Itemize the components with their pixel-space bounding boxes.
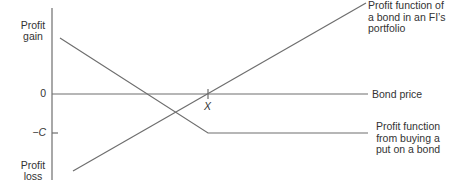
profit-loss-line2: loss xyxy=(18,171,48,182)
bond-profit-label-line1: Profit function of xyxy=(368,0,445,12)
put-profit-line xyxy=(60,38,368,133)
bond-profit-label-line3: portfolio xyxy=(368,23,445,35)
profit-gain-line2: gain xyxy=(18,31,48,42)
bond-price-label: Bond price xyxy=(372,89,422,100)
strike-price-label: X xyxy=(204,101,211,112)
zero-tick-label: 0 xyxy=(20,88,46,99)
minus-c-tick-label: −C xyxy=(14,127,46,138)
bond-profit-label: Profit function of a bond in an FI’s por… xyxy=(368,0,445,35)
put-profit-label: Profit function from buying a put on a b… xyxy=(368,121,448,156)
profit-loss-label: Profit loss xyxy=(18,160,48,182)
bond-profit-line xyxy=(73,3,366,171)
put-profit-label-line1: Profit function xyxy=(368,121,448,133)
profit-gain-label: Profit gain xyxy=(18,20,48,42)
put-profit-label-line3: put on a bond xyxy=(368,144,448,156)
